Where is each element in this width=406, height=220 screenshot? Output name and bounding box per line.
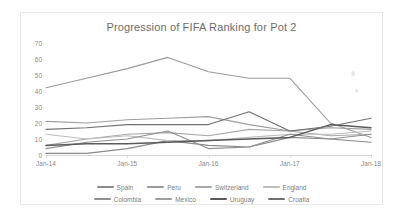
x-axis-tick-mark [46,155,47,158]
scan-artifact-speck [351,71,355,76]
y-axis-tick-label: 60 [35,56,42,63]
series-line-spain [46,137,371,153]
legend-swatch-croatia [268,198,285,200]
series-line-switzerland [46,129,371,145]
series-line-mexico [46,117,371,131]
legend-item-colombia[interactable]: Colombia [94,196,141,203]
legend-label: Mexico [175,196,196,203]
scan-artifact-speck [355,89,358,93]
y-axis-tick-label: 0 [38,152,42,159]
y-axis-tick-label: 10 [35,136,42,143]
legend-item-peru[interactable]: Peru [147,184,181,191]
legend-item-croatia[interactable]: Croatia [268,196,309,203]
series-line-peru [46,57,371,137]
legend-swatch-mexico [155,198,172,200]
y-axis-tick-label: 30 [35,104,42,111]
x-axis-tick-label: Jan-17 [280,160,300,167]
x-axis-tick-mark [290,155,291,158]
legend-row-bottom: ColombiaMexicoUruguayCroatia [21,193,382,205]
plot-lines [46,43,371,155]
y-axis-tick-label: 20 [35,120,42,127]
legend-item-uruguay[interactable]: Uruguay [210,196,255,203]
legend-label: Spain [117,184,134,191]
series-line-colombia [46,131,371,149]
x-axis-tick-label: Jan-18 [361,160,381,167]
y-axis-tick-label: 70 [35,40,42,47]
legend-row-top: SpainPeruSwitzerlandEngland [21,181,382,193]
legend-label: Peru [167,184,181,191]
legend-item-spain[interactable]: Spain [97,184,134,191]
x-axis-tick-mark [371,155,372,158]
chart-legend: SpainPeruSwitzerlandEngland ColombiaMexi… [21,181,382,205]
y-axis-tick-label: 40 [35,88,42,95]
legend-swatch-england [263,186,280,188]
legend-label: Switzerland [215,184,249,191]
x-axis-tick-mark [209,155,210,158]
x-axis-tick-mark [127,155,128,158]
legend-item-england[interactable]: England [263,184,307,191]
plot-area: 010203040506070 Jan-14Jan-15Jan-16Jan-17… [46,43,371,155]
chart-container: Progression of FIFA Ranking for Pot 2 01… [20,12,383,205]
legend-swatch-colombia [94,198,111,200]
legend-label: England [283,184,307,191]
x-axis-tick-label: Jan-15 [117,160,137,167]
chart-title: Progression of FIFA Ranking for Pot 2 [21,21,382,33]
legend-swatch-spain [97,186,114,188]
legend-label: Colombia [114,196,141,203]
legend-swatch-uruguay [210,198,227,200]
y-axis-tick-label: 50 [35,72,42,79]
legend-swatch-switzerland [195,186,212,188]
x-axis-tick-label: Jan-16 [199,160,219,167]
legend-item-mexico[interactable]: Mexico [155,196,196,203]
legend-item-switzerland[interactable]: Switzerland [195,184,249,191]
x-axis-tick-label: Jan-14 [36,160,56,167]
legend-swatch-peru [147,186,164,188]
legend-label: Uruguay [230,196,255,203]
legend-label: Croatia [288,196,309,203]
